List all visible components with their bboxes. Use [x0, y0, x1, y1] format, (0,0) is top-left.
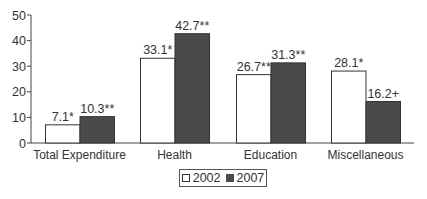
category-label: Education	[244, 148, 297, 162]
bar-2002	[141, 58, 176, 143]
bar-value-label: 16.2+	[367, 87, 399, 101]
legend-item-2007: 2007	[226, 171, 265, 185]
bar-2007	[175, 34, 210, 143]
bar-2007	[366, 102, 401, 143]
bar-value-label: 33.1*	[143, 43, 172, 57]
y-tick-label: 20	[12, 85, 26, 99]
bar-2002	[46, 125, 81, 143]
y-tick-label: 40	[12, 34, 26, 48]
y-tick-label: 10	[12, 111, 26, 125]
bar-2007	[271, 63, 306, 143]
legend-item-2002: 2002	[182, 171, 221, 185]
bar-value-label: 42.7**	[175, 19, 209, 33]
bar-value-label: 10.3**	[80, 102, 114, 116]
bar-value-label: 7.1*	[52, 110, 74, 124]
y-tick-label: 0	[19, 137, 26, 151]
bar-value-label: 26.7**	[237, 60, 271, 74]
legend-swatch-2002	[182, 174, 190, 182]
legend: 2002 2007	[179, 169, 267, 187]
bar-2002	[332, 71, 367, 143]
y-tick-label: 30	[12, 60, 26, 74]
bar-value-label: 31.3**	[271, 48, 305, 62]
bar-value-label: 28.1*	[334, 56, 363, 70]
y-tick-label: 50	[12, 9, 26, 23]
category-label: Health	[157, 148, 192, 162]
bar-2007	[80, 117, 115, 143]
category-label: Total Expenditure	[33, 148, 126, 162]
bar-2002	[237, 75, 272, 143]
legend-swatch-2007	[226, 174, 234, 182]
category-label: Miscellaneous	[327, 148, 403, 162]
